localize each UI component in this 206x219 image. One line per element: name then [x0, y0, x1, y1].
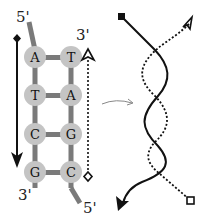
label-3prime-top: 3' [76, 26, 90, 44]
base-left: T [31, 88, 40, 103]
right-strand-direction-arrow [82, 49, 94, 181]
left-backbone [29, 22, 35, 50]
rung [44, 55, 62, 175]
base-right: G [66, 127, 76, 142]
arrowhead-icon [116, 196, 129, 211]
base-left: C [30, 127, 40, 142]
label-5prime-bottom: 5' [83, 199, 97, 217]
base-right: A [65, 88, 76, 103]
dotted-strand [142, 24, 190, 200]
base-left: G [30, 165, 40, 180]
right-backbone [71, 188, 80, 203]
label-5prime-top: 5' [16, 8, 30, 26]
base-right: T [67, 50, 76, 65]
diamond-open-icon [84, 172, 92, 181]
left-strand-direction-arrow [11, 34, 23, 168]
dna-diagram: A T T A C G G C 5' 3' 3' 5' [0, 0, 206, 219]
transform-arrow [102, 99, 133, 105]
square-open-icon [187, 197, 194, 204]
open-arrowhead-icon [183, 17, 192, 29]
dna-ladder: A T T A C G G C 5' 3' 3' 5' [11, 8, 97, 217]
diamond-filled-icon [13, 34, 21, 43]
open-arrowhead-icon [82, 49, 94, 60]
label-3prime-bottom: 3' [18, 186, 32, 204]
double-helix [116, 13, 194, 211]
base-left: A [29, 50, 40, 65]
square-filled-icon [118, 13, 125, 20]
base-right: C [66, 165, 76, 180]
